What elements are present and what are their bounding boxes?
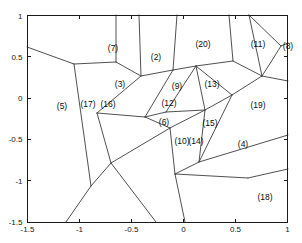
voronoi-edge <box>175 162 199 174</box>
x-tick-label: 0 <box>181 225 186 234</box>
voronoi-edge <box>139 15 141 76</box>
voronoi-edge <box>145 112 166 117</box>
plot-border <box>28 16 288 223</box>
voronoi-site-label: (20) <box>195 39 210 49</box>
voronoi-edge <box>91 163 111 186</box>
voronoi-edge <box>175 174 248 178</box>
y-axis-ticks <box>28 16 288 223</box>
voronoi-edge <box>232 76 262 95</box>
voronoi-edge <box>175 174 185 222</box>
voronoi-edge <box>233 61 262 76</box>
voronoi-edge <box>170 110 205 128</box>
voronoi-site-label: (9) <box>172 81 183 91</box>
voronoi-site-label: (7) <box>108 43 119 53</box>
voronoi-site-label: (8) <box>283 41 294 51</box>
voronoi-edge <box>111 128 170 163</box>
y-tick-label: 0.5 <box>11 53 23 62</box>
voronoi-site-label: (4) <box>238 139 249 149</box>
voronoi-figure: -1.5-1-0.500.51 -1.5-1-0.500.51 (7)(2)(2… <box>0 0 302 243</box>
voronoi-edge <box>262 76 288 81</box>
voronoi-edge <box>116 62 141 76</box>
voronoi-site-label: (12) <box>161 98 176 108</box>
x-axis-ticks <box>28 16 288 223</box>
voronoi-site-label: (6) <box>159 117 170 127</box>
axes-frame <box>28 16 288 223</box>
x-axis-tick-labels: -1.5-1-0.500.51 <box>21 225 291 234</box>
voronoi-edge <box>74 64 91 186</box>
voronoi-plot: -1.5-1-0.500.51 -1.5-1-0.500.51 (7)(2)(2… <box>0 0 302 243</box>
y-tick-label: 1 <box>18 12 23 21</box>
voronoi-edge <box>97 113 145 117</box>
voronoi-edge <box>166 110 205 112</box>
x-tick-label: -0.5 <box>125 225 139 234</box>
x-tick-label: 1 <box>285 225 290 234</box>
voronoi-edge <box>248 169 288 178</box>
voronoi-site-label: (18) <box>257 192 272 202</box>
voronoi-edge <box>141 70 173 76</box>
y-tick-label: -1 <box>15 177 23 186</box>
voronoi-edge <box>74 62 116 64</box>
y-axis-tick-labels: -1.5-1-0.500.51 <box>9 12 23 228</box>
y-tick-label: 0 <box>18 94 23 103</box>
voronoi-edge <box>97 113 111 163</box>
voronoi-edge <box>173 66 196 70</box>
voronoi-site-label: (11) <box>251 39 266 49</box>
voronoi-site-label: (2) <box>151 52 162 62</box>
voronoi-site-label: (13) <box>204 79 219 89</box>
voronoi-site-label: (14) <box>188 136 203 146</box>
x-tick-label: 0.5 <box>230 225 242 234</box>
y-tick-label: -0.5 <box>9 135 23 144</box>
voronoi-edge <box>111 163 156 222</box>
voronoi-edge <box>229 15 233 61</box>
y-tick-label: -1.5 <box>9 218 23 227</box>
voronoi-site-label: (16) <box>100 99 115 109</box>
voronoi-edge <box>173 15 177 70</box>
voronoi-edge <box>170 128 175 174</box>
voronoi-edge <box>262 62 271 76</box>
voronoi-site-label: (10) <box>174 136 189 146</box>
voronoi-edge <box>66 186 91 222</box>
voronoi-site-label: (5) <box>57 101 68 111</box>
voronoi-edge <box>145 70 173 117</box>
voronoi-site-label: (15) <box>202 118 217 128</box>
voronoi-edge <box>196 61 233 66</box>
voronoi-site-label: (3) <box>115 79 126 89</box>
x-tick-label: -1.5 <box>21 225 35 234</box>
voronoi-site-label: (17) <box>80 99 95 109</box>
voronoi-edge <box>271 46 281 62</box>
voronoi-site-label: (19) <box>250 100 265 110</box>
voronoi-edge <box>27 47 74 64</box>
voronoi-cell-edges <box>27 15 288 222</box>
x-tick-label: -1 <box>76 225 84 234</box>
voronoi-site-labels: (7)(2)(20)(11)(8)(3)(9)(13)(5)(17)(16)(1… <box>57 39 294 202</box>
